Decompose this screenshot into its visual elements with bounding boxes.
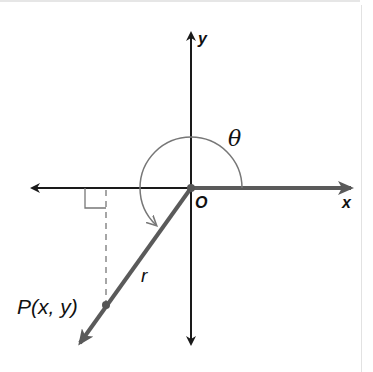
theta-label: θ <box>228 126 241 151</box>
origin-label: O <box>195 194 208 211</box>
point-p <box>102 301 110 309</box>
radius-label: r <box>141 265 148 286</box>
y-axis-label: y <box>197 30 208 47</box>
right-angle-marker <box>85 188 106 208</box>
x-axis-label: x <box>341 194 352 211</box>
terminal-ray <box>80 188 191 343</box>
point-label: P(x, y) <box>17 295 78 318</box>
coordinate-diagram: y x O θ r P(x, y) <box>0 0 373 372</box>
origin-point <box>187 184 195 192</box>
